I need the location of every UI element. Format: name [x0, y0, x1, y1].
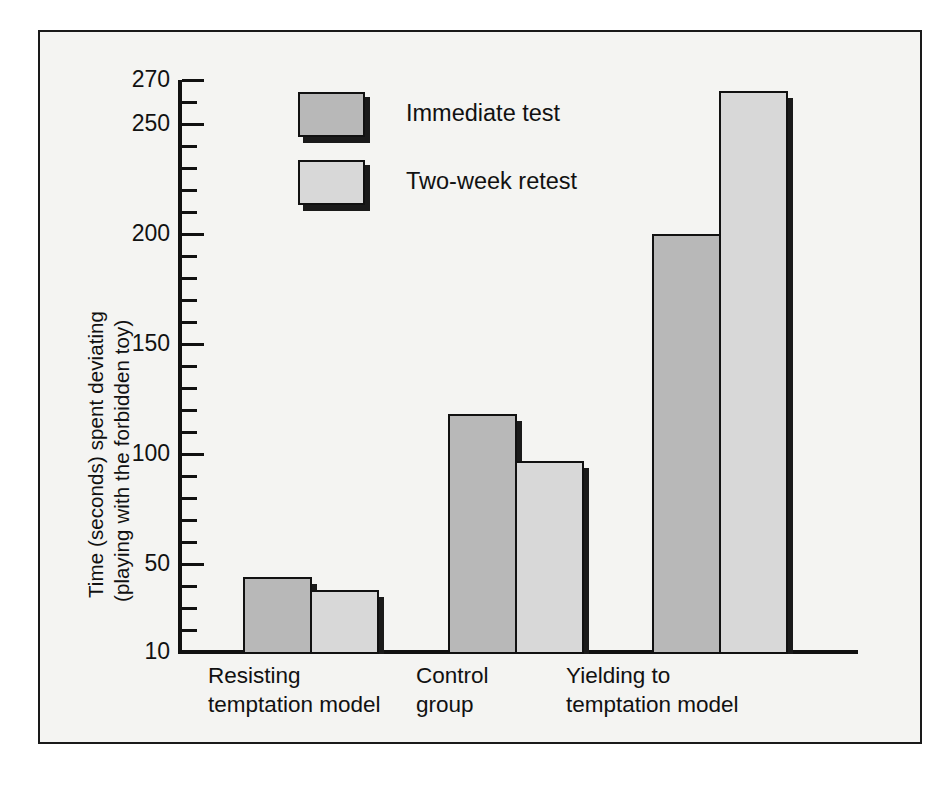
x-axis-label-line-1: Resisting [208, 662, 381, 691]
x-axis-label-line-1: Control [416, 662, 489, 691]
legend-swatch-shadow-side-icon [365, 165, 370, 211]
bar-immediate-group-1[interactable] [448, 414, 517, 654]
x-axis-label-resisting: Resisting temptation model [208, 662, 381, 720]
legend-swatch-shadow-side-icon [365, 97, 370, 143]
legend-swatch-shadow-icon [303, 137, 370, 143]
legend-label-immediate: Immediate test [406, 100, 560, 127]
chart-legend: Immediate test Two-week retest [298, 92, 718, 217]
x-axis-label-line-1: Yielding to [566, 662, 739, 691]
chart-figure: Time (seconds) spent deviating (playing … [0, 0, 952, 785]
x-axis-label-line-2: group [416, 691, 489, 720]
x-axis-label-line-2: temptation model [566, 691, 739, 720]
x-axis-label-yielding: Yielding to temptation model [566, 662, 739, 720]
legend-item-retest[interactable]: Two-week retest [298, 160, 718, 212]
bar-retest-group-0[interactable] [310, 590, 379, 654]
legend-swatch-immediate-icon [298, 92, 365, 137]
bar-immediate-group-2[interactable] [652, 234, 721, 654]
legend-swatch-shadow-icon [303, 205, 370, 211]
x-axis-label-line-2: temptation model [208, 691, 381, 720]
legend-label-retest: Two-week retest [406, 168, 577, 195]
legend-item-immediate[interactable]: Immediate test [298, 92, 718, 144]
bar-immediate-group-0[interactable] [243, 577, 312, 654]
legend-swatch-retest-icon [298, 160, 365, 205]
x-axis-labels: Resisting temptation model Control group… [178, 662, 878, 732]
x-axis-label-control: Control group [416, 662, 489, 720]
bar-retest-group-2[interactable] [719, 91, 788, 654]
bar-retest-group-1[interactable] [515, 461, 584, 654]
